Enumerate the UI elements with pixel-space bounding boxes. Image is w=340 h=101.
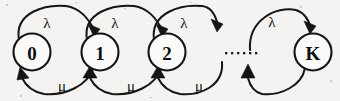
backward-arc-K-to-dots	[248, 68, 305, 94]
state-node-0[interactable]: 0	[14, 34, 51, 71]
diagram-canvas: 0 1 2 K λ λ λ λ μ μ μ	[0, 0, 340, 101]
mu-label-dots-2: μ	[195, 78, 203, 94]
state-nodes: 0 1 2 K	[14, 34, 332, 71]
mu-label-1-0: μ	[58, 78, 66, 94]
state-label-2: 2	[162, 43, 172, 64]
forward-arrowheads	[88, 19, 316, 37]
state-label-0: 0	[27, 43, 37, 64]
state-label-1: 1	[95, 43, 105, 64]
arrowhead-into-dots-lower	[241, 64, 255, 78]
lambda-label-1-2: λ	[111, 15, 119, 31]
ellipsis-dots	[225, 52, 257, 54]
lambda-label-2-dots: λ	[180, 15, 188, 31]
lambda-label-0-1: λ	[43, 15, 51, 31]
state-node-1[interactable]: 1	[82, 34, 119, 71]
lambda-label-dots-K: λ	[268, 14, 276, 30]
mu-label-2-1: μ	[127, 78, 135, 94]
backward-arc-2-to-1	[90, 68, 161, 94]
markov-chain-diagram: 0 1 2 K λ λ λ λ μ μ μ	[0, 0, 340, 101]
state-node-K[interactable]: K	[295, 34, 332, 71]
state-node-2[interactable]: 2	[149, 34, 186, 71]
state-label-K: K	[306, 43, 321, 64]
